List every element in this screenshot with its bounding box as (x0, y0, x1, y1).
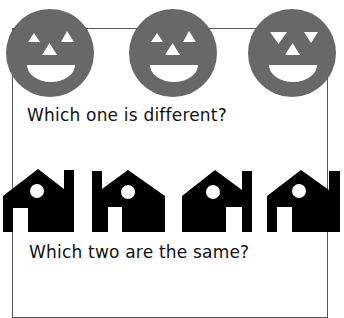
house-2[interactable] (92, 170, 165, 232)
house-1[interactable] (3, 169, 74, 232)
house-4[interactable] (267, 170, 340, 232)
house-3[interactable] (182, 170, 252, 232)
smiley-face-3[interactable] (248, 9, 336, 97)
smiley-face-2[interactable] (129, 9, 217, 97)
smiley-face-1[interactable] (6, 9, 94, 97)
question-which-different: Which one is different? (27, 105, 227, 125)
question-which-same: Which two are the same? (29, 242, 249, 262)
